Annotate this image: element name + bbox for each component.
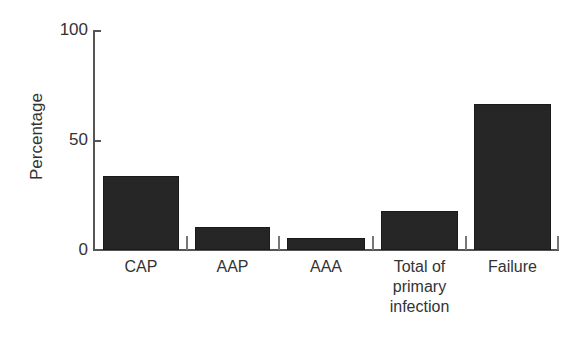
x-category-label: Failure — [459, 257, 566, 277]
y-tick-100 — [93, 30, 101, 32]
bar-aap — [195, 227, 270, 250]
y-tick-50 — [93, 140, 101, 142]
y-tick-label-0: 0 — [28, 240, 88, 260]
y-tick-label-50: 50 — [28, 130, 88, 150]
x-tick — [557, 236, 559, 250]
y-tick-label-100: 100 — [28, 20, 88, 40]
x-category-label: CAP — [88, 257, 194, 277]
bar-cap — [103, 176, 179, 250]
x-category-label: AAA — [272, 257, 380, 277]
x-tick — [372, 236, 374, 250]
bar-aaa — [287, 238, 365, 250]
x-tick — [186, 236, 188, 250]
x-category-label: Total ofprimaryinfection — [366, 257, 473, 317]
x-category-label: AAP — [180, 257, 285, 277]
x-tick — [278, 236, 280, 250]
bar-total-of-primary-infection — [381, 211, 458, 250]
x-tick — [465, 236, 467, 250]
bar-failure — [474, 104, 551, 250]
